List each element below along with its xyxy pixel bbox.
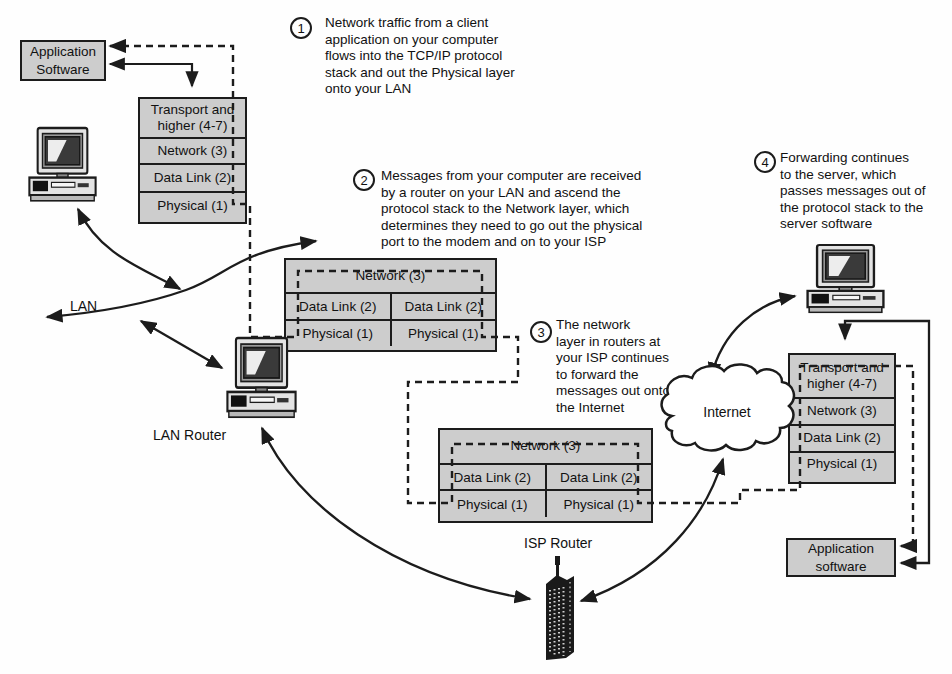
client-layer-physical: Physical (1)	[140, 191, 245, 220]
annotation-3-text: The network layer in routers at your ISP…	[556, 317, 670, 417]
server-layer-physical: Physical (1)	[790, 451, 894, 476]
annotation-1-text: Network traffic from a client applicatio…	[325, 15, 515, 98]
server-layer-datalink: Data Link (2)	[790, 424, 894, 451]
isp-router-datalink-left: Data Link (2)	[440, 465, 545, 489]
annotation-4-text: Forwarding continues to the server, whic…	[780, 150, 926, 233]
lan-router-protocol-stack: Network (3) Data Link (2) Data Link (2) …	[284, 258, 497, 352]
app-to-stack-arrow	[110, 64, 192, 86]
isp-router-label: ISP Router	[524, 535, 592, 551]
application-software-top-box: Application Software	[20, 40, 106, 81]
annotation-2-text: Messages from your computer are received…	[381, 168, 642, 251]
network-flow-diagram: Application Software Transport and highe…	[0, 0, 952, 674]
internet-label: Internet	[703, 404, 751, 420]
lan-router-physical-right: Physical (1)	[390, 321, 496, 346]
server-layer-transport: Transport and higher (4-7)	[790, 355, 894, 397]
isp-router-datalink-right: Data Link (2)	[545, 465, 652, 489]
server-computer-icon	[808, 245, 884, 312]
isp-router-physical-right: Physical (1)	[545, 491, 652, 517]
annotation-3-number: 3	[530, 321, 552, 343]
client-protocol-stack: Transport and higher (4-7) Network (3) D…	[138, 97, 247, 224]
isp-router-layer-network: Network (3)	[440, 430, 651, 463]
cloud-to-server-arrow	[711, 296, 795, 378]
lan-router-layer-network: Network (3)	[286, 260, 495, 292]
client-layer-network: Network (3)	[140, 137, 245, 163]
lan-to-router-arrow	[141, 321, 222, 368]
annotation-2-number: 2	[353, 169, 375, 191]
lan-router-datalink-right: Data Link (2)	[390, 294, 496, 319]
isp-router-building-icon	[546, 556, 574, 660]
client-layer-transport: Transport and higher (4-7)	[140, 99, 245, 137]
internet-cloud: Internet	[662, 364, 794, 450]
lan-router-label: LAN Router	[153, 427, 226, 443]
lan-label: LAN	[70, 298, 97, 314]
isp-router-protocol-stack: Network (3) Data Link (2) Data Link (2) …	[438, 428, 653, 523]
annotation-4-number: 4	[754, 151, 776, 173]
annotation-1-number: 1	[290, 17, 312, 39]
client-layer-datalink: Data Link (2)	[140, 163, 245, 191]
client-computer-icon	[29, 128, 95, 201]
lan-router-physical-left: Physical (1)	[286, 321, 390, 346]
server-layer-network: Network (3)	[790, 397, 894, 424]
lan-router-datalink-left: Data Link (2)	[286, 294, 390, 319]
server-protocol-stack: Transport and higher (4-7) Network (3) D…	[788, 353, 896, 484]
isp-router-physical-left: Physical (1)	[440, 491, 545, 517]
application-software-bottom-box: Application software	[786, 538, 896, 577]
